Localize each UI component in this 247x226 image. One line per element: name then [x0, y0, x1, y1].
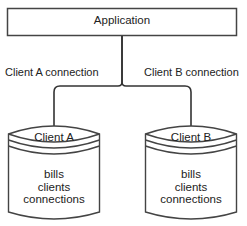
database-a-title: Client A [8, 131, 100, 144]
table-name: connections [145, 193, 237, 206]
table-name: clients [8, 181, 100, 194]
database-b-title: Client B [145, 131, 237, 144]
table-name: bills [8, 168, 100, 181]
table-name: bills [145, 168, 237, 181]
table-name: connections [8, 193, 100, 206]
application-label: Application [8, 14, 236, 27]
client-a-connection-label: Client A connection [5, 66, 99, 79]
database-a-tables: bills clients connections [8, 168, 100, 206]
connection-line-a [54, 36, 122, 128]
client-b-connection-label: Client B connection [144, 66, 239, 79]
database-b-tables: bills clients connections [145, 168, 237, 206]
connection-line-b [122, 36, 191, 128]
table-name: clients [145, 181, 237, 194]
